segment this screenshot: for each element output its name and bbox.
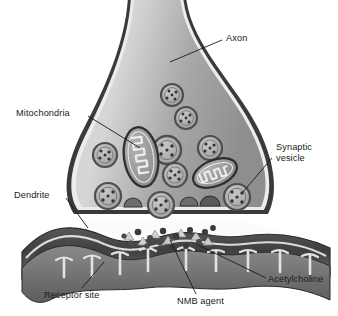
label-synaptic-vesicle: Synapticvesicle — [276, 142, 336, 164]
label-receptor-site: Receptor site — [44, 290, 99, 301]
label-acetylcholine: Acetylcholine — [268, 274, 323, 285]
synaptic-vesicle — [93, 143, 117, 167]
synaptic-vesicle — [175, 107, 197, 129]
label-axon: Axon — [226, 33, 247, 44]
diagram-canvas: Axon Mitochondria Synapticvesicle Dendri… — [0, 0, 338, 316]
label-mitochondria: Mitochondria — [16, 108, 70, 119]
synaptic-vesicle — [161, 84, 183, 106]
synaptic-vesicle — [198, 136, 222, 160]
synaptic-vesicle — [95, 183, 121, 209]
synaptic-vesicle — [148, 192, 174, 218]
label-synaptic-vesicle-line2: vesicle — [276, 153, 305, 163]
label-synaptic-vesicle-line1: Synaptic — [276, 142, 312, 152]
label-dendrite: Dendrite — [14, 190, 50, 201]
label-nmb-agent: NMB agent — [177, 296, 224, 307]
synaptic-vesicle — [163, 163, 187, 187]
